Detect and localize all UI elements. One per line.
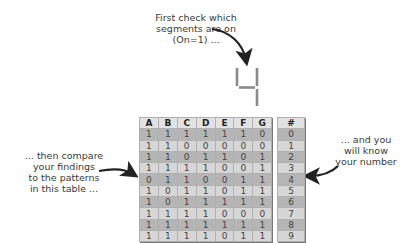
table-cell: 1 bbox=[140, 230, 159, 241]
table-row: 2 bbox=[278, 151, 305, 162]
number-cell: 3 bbox=[278, 163, 305, 174]
table-cell: 1 bbox=[196, 151, 215, 162]
table-cell: 1 bbox=[253, 230, 272, 241]
number-cell: 1 bbox=[278, 140, 305, 151]
table-cell: 0 bbox=[234, 140, 253, 151]
table-cell: 1 bbox=[177, 174, 196, 185]
table-cell: 0 bbox=[234, 208, 253, 219]
table-cell: 1 bbox=[177, 163, 196, 174]
table-cell: 1 bbox=[177, 208, 196, 219]
table-cell: 1 bbox=[215, 197, 234, 208]
table-cell: 0 bbox=[158, 185, 177, 196]
table-cell: 1 bbox=[177, 129, 196, 140]
table-cell: 1 bbox=[158, 151, 177, 162]
table-cell: 1 bbox=[234, 185, 253, 196]
table-cell: 1 bbox=[253, 151, 272, 162]
table-cell: 0 bbox=[177, 140, 196, 151]
table-cell: 1 bbox=[158, 140, 177, 151]
number-cell: 7 bbox=[278, 208, 305, 219]
table-cell: 0 bbox=[215, 174, 234, 185]
table-header-row: # bbox=[278, 118, 305, 129]
number-cell: 0 bbox=[278, 129, 305, 140]
column-header-b: B bbox=[158, 118, 177, 129]
table-cell: 1 bbox=[196, 185, 215, 196]
table-row: 8 bbox=[278, 219, 305, 230]
number-cell: 2 bbox=[278, 151, 305, 162]
table-cell: 1 bbox=[253, 219, 272, 230]
table-cell: 1 bbox=[177, 219, 196, 230]
table-cell: 1 bbox=[253, 197, 272, 208]
table-cell: 1 bbox=[177, 230, 196, 241]
table-cell: 1 bbox=[196, 129, 215, 140]
table-row: 1101101 bbox=[140, 151, 272, 162]
number-table: # 0123456789 bbox=[277, 117, 305, 242]
table-row: 9 bbox=[278, 230, 305, 241]
column-header-f: F bbox=[234, 118, 253, 129]
table-cell: 1 bbox=[140, 197, 159, 208]
table-cell: 1 bbox=[196, 230, 215, 241]
table-cell: 1 bbox=[215, 151, 234, 162]
table-cell: 0 bbox=[158, 197, 177, 208]
table-cell: 1 bbox=[196, 208, 215, 219]
table-cell: 1 bbox=[158, 230, 177, 241]
table-cell: 0 bbox=[215, 163, 234, 174]
table-cell: 1 bbox=[253, 185, 272, 196]
number-cell: 6 bbox=[278, 197, 305, 208]
table-row: 1111110 bbox=[140, 129, 272, 140]
column-header-number: # bbox=[278, 118, 305, 129]
number-cell: 5 bbox=[278, 185, 305, 196]
number-cell: 4 bbox=[278, 174, 305, 185]
table-cell: 0 bbox=[215, 140, 234, 151]
table-cell: 0 bbox=[140, 174, 159, 185]
table-cell: 0 bbox=[177, 151, 196, 162]
arrow-to-table-icon bbox=[99, 169, 133, 174]
table-cell: 1 bbox=[215, 219, 234, 230]
table-row: 5 bbox=[278, 185, 305, 196]
table-cell: 0 bbox=[253, 140, 272, 151]
table-cell: 1 bbox=[140, 151, 159, 162]
table-cell: 1 bbox=[253, 163, 272, 174]
table-cell: 0 bbox=[253, 129, 272, 140]
table-cell: 1 bbox=[158, 174, 177, 185]
arrow-to-number-icon bbox=[309, 166, 338, 176]
table-cell: 1 bbox=[158, 219, 177, 230]
table-cell: 1 bbox=[140, 129, 159, 140]
table-cell: 1 bbox=[234, 129, 253, 140]
table-cell: 1 bbox=[196, 219, 215, 230]
table-row: 1111001 bbox=[140, 163, 272, 174]
table-cell: 0 bbox=[215, 185, 234, 196]
table-cell: 1 bbox=[158, 129, 177, 140]
table-cell: 0 bbox=[234, 163, 253, 174]
table-cell: 0 bbox=[234, 151, 253, 162]
seven-segment-digit-4 bbox=[237, 68, 257, 106]
table-row: 0 bbox=[278, 129, 305, 140]
table-row: 1 bbox=[278, 140, 305, 151]
table-cell: 1 bbox=[196, 197, 215, 208]
table-cell: 1 bbox=[140, 219, 159, 230]
table-cell: 1 bbox=[140, 208, 159, 219]
table-row: 4 bbox=[278, 174, 305, 185]
table-cell: 1 bbox=[196, 163, 215, 174]
table-cell: 1 bbox=[140, 185, 159, 196]
column-header-c: C bbox=[177, 118, 196, 129]
segment-truth-table: A B C D E F G 11111101100000110110111110… bbox=[139, 117, 272, 242]
column-header-d: D bbox=[196, 118, 215, 129]
table-row: 7 bbox=[278, 208, 305, 219]
arrow-to-digit-icon bbox=[212, 29, 246, 60]
table-row: 6 bbox=[278, 197, 305, 208]
table-cell: 1 bbox=[140, 163, 159, 174]
table-row: 1111000 bbox=[140, 208, 272, 219]
table-cell: 0 bbox=[215, 230, 234, 241]
table-cell: 1 bbox=[215, 129, 234, 140]
number-cell: 8 bbox=[278, 219, 305, 230]
table-row: 1011011 bbox=[140, 185, 272, 196]
table-cell: 1 bbox=[158, 208, 177, 219]
table-cell: 1 bbox=[234, 230, 253, 241]
table-cell: 1 bbox=[158, 163, 177, 174]
table-cell: 0 bbox=[196, 140, 215, 151]
table-header-row: A B C D E F G bbox=[140, 118, 272, 129]
column-header-a: A bbox=[140, 118, 159, 129]
table-row: 1111111 bbox=[140, 219, 272, 230]
number-cell: 9 bbox=[278, 230, 305, 241]
table-row: 0110011 bbox=[140, 174, 272, 185]
